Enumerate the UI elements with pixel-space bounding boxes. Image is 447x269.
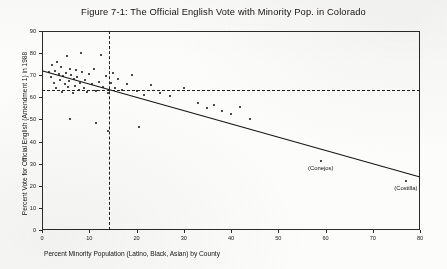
scatter-point xyxy=(69,68,71,70)
scatter-point xyxy=(320,160,322,162)
scatter-point xyxy=(239,106,241,108)
scatter-point xyxy=(213,104,215,106)
scatter-point xyxy=(79,82,81,84)
data-point-annotation: (Costilla) xyxy=(394,185,417,191)
scatter-point xyxy=(81,71,83,73)
x-axis-tick xyxy=(89,230,90,233)
scatter-point xyxy=(54,70,56,72)
scatter-point xyxy=(150,84,152,86)
scatter-point xyxy=(58,73,60,75)
x-axis-tick-label: 50 xyxy=(275,235,281,241)
x-axis-tick xyxy=(42,230,43,233)
scatter-point xyxy=(75,69,77,71)
scatter-point xyxy=(100,54,102,56)
x-axis-tick-label: 10 xyxy=(86,235,92,241)
scatter-point xyxy=(126,83,128,85)
x-axis-tick xyxy=(326,230,327,233)
scatter-point xyxy=(51,64,53,66)
scatter-point xyxy=(73,78,75,80)
scatter-point xyxy=(138,126,140,128)
scatter-point xyxy=(53,82,55,84)
x-axis-tick-label: 20 xyxy=(133,235,139,241)
scatter-point xyxy=(72,92,74,94)
x-axis-tick-label: 60 xyxy=(322,235,328,241)
scatter-point xyxy=(102,86,104,88)
scatter-point xyxy=(197,102,199,104)
x-axis-tick-label: 30 xyxy=(181,235,187,241)
scatter-point xyxy=(76,76,78,78)
scatter-point xyxy=(230,113,232,115)
scatter-point xyxy=(169,95,171,97)
scatter-point xyxy=(59,79,61,81)
x-axis-tick xyxy=(420,230,421,233)
figure-page: Figure 7-1: The Official English Vote wi… xyxy=(0,0,447,269)
scatter-point xyxy=(65,72,67,74)
scatter-point xyxy=(112,72,114,74)
plot-area xyxy=(42,31,420,230)
scatter-point xyxy=(69,118,71,120)
scatter-point xyxy=(62,75,64,77)
scatter-point xyxy=(131,74,133,76)
scatter-point xyxy=(117,78,119,80)
scatter-point xyxy=(66,55,68,57)
scatter-point xyxy=(60,66,62,68)
scatter-point xyxy=(74,85,76,87)
scatter-point xyxy=(93,68,95,70)
scatter-point xyxy=(249,118,251,120)
scatter-point xyxy=(61,91,63,93)
scatter-point xyxy=(98,81,100,83)
scatter-point xyxy=(70,74,72,76)
scatter-point xyxy=(48,71,50,73)
scatter-point xyxy=(64,83,66,85)
scatter-point xyxy=(56,61,58,63)
scatter-point xyxy=(221,110,223,112)
reference-line-horizontal xyxy=(42,90,420,91)
scatter-point xyxy=(95,122,97,124)
reference-line-vertical xyxy=(109,31,110,230)
x-axis-tick xyxy=(137,230,138,233)
scatter-point xyxy=(206,107,208,109)
scatter-point xyxy=(88,73,90,75)
y-axis-tick-label: 90 xyxy=(20,28,36,34)
scatter-point xyxy=(84,79,86,81)
x-axis-tick-label: 70 xyxy=(370,235,376,241)
x-axis-tick xyxy=(373,230,374,233)
x-axis-tick-label: 0 xyxy=(40,235,43,241)
x-axis-tick-label: 80 xyxy=(417,235,423,241)
scatter-point xyxy=(159,92,161,94)
scatter-point xyxy=(105,75,107,77)
scatter-point xyxy=(86,91,88,93)
y-axis-title: Percent Vote for Official English (Amend… xyxy=(21,44,28,224)
y-axis-tick xyxy=(39,230,42,231)
x-axis-tick xyxy=(184,230,185,233)
scatter-point xyxy=(80,52,82,54)
scatter-point xyxy=(405,180,407,182)
scatter-point xyxy=(91,83,93,85)
scatter-point xyxy=(143,94,145,96)
chart-title: Figure 7-1: The Official English Vote wi… xyxy=(0,7,447,17)
x-axis-title: Percent Minority Population (Latino, Bla… xyxy=(44,250,220,257)
y-axis-tick-label: 0 xyxy=(20,227,36,233)
x-axis-tick xyxy=(278,230,279,233)
data-point-annotation: (Conejos) xyxy=(308,165,334,171)
x-axis-tick xyxy=(231,230,232,233)
scatter-point xyxy=(68,80,70,82)
scatter-point xyxy=(67,86,69,88)
x-axis-tick-label: 40 xyxy=(228,235,234,241)
scatter-point xyxy=(50,76,52,78)
